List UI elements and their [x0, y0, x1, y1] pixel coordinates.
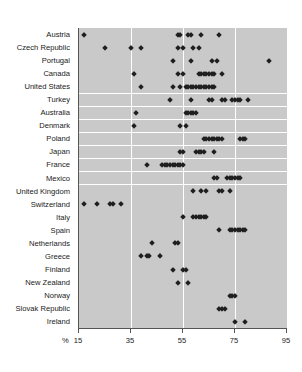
x-axis-tick-label: 95: [273, 336, 299, 345]
category-label: Spain: [0, 224, 74, 237]
category-label: Turkey: [0, 93, 74, 106]
category-label: Greece: [0, 250, 74, 263]
category-label: Portugal: [0, 54, 74, 67]
category-label: Ireland: [0, 315, 74, 328]
category-label: Poland: [0, 132, 74, 145]
scatter-chart: AustriaCzech RepublicPortugalCanadaUnite…: [0, 0, 302, 372]
x-axis-tick: [182, 329, 183, 333]
category-label: France: [0, 158, 74, 171]
category-label: Mexico: [0, 172, 74, 185]
plot-area: [78, 28, 287, 328]
category-label: Denmark: [0, 119, 74, 132]
category-axis: AustriaCzech RepublicPortugalCanadaUnite…: [0, 28, 74, 328]
x-axis-tick: [78, 329, 79, 333]
category-label: Czech Republic: [0, 41, 74, 54]
gridline: [287, 28, 288, 328]
category-label: Netherlands: [0, 237, 74, 250]
category-label: Australia: [0, 106, 74, 119]
category-label: United Kingdom: [0, 185, 74, 198]
category-label: Switzerland: [0, 198, 74, 211]
category-label: Austria: [0, 28, 74, 41]
category-label: Japan: [0, 145, 74, 158]
category-label: New Zealand: [0, 276, 74, 289]
x-axis-tick-label: 15: [65, 336, 91, 345]
category-label: Italy: [0, 211, 74, 224]
x-axis-tick: [130, 329, 131, 333]
x-axis-tick: [286, 329, 287, 333]
category-label: Slovak Republic: [0, 302, 74, 315]
category-label: United States: [0, 80, 74, 93]
x-axis-tick-label: 75: [221, 336, 247, 345]
x-axis-tick: [234, 329, 235, 333]
category-label: Norway: [0, 289, 74, 302]
category-label: Finland: [0, 263, 74, 276]
chart-title: [0, 0, 302, 9]
x-axis-tick-label: 55: [169, 336, 195, 345]
category-label: Canada: [0, 67, 74, 80]
x-axis-tick-label: 35: [117, 336, 143, 345]
